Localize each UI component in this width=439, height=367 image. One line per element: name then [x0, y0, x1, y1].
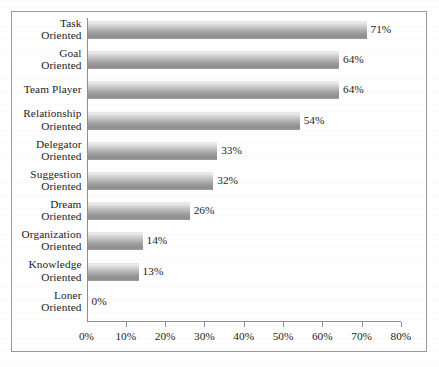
category-label-line: Oriented — [4, 150, 82, 162]
bar-value-label: 0% — [92, 293, 107, 310]
bar-value-label: 13% — [143, 263, 164, 280]
x-axis-tick — [244, 322, 245, 327]
bar-value-label: 14% — [147, 232, 168, 249]
category-label-line: Oriented — [4, 210, 82, 222]
x-axis-tick — [283, 322, 284, 327]
category-label-line: Suggestion — [4, 168, 82, 180]
category-label-line: Delegator — [4, 138, 82, 150]
y-axis-category-label: OrganizationOriented — [4, 228, 82, 253]
category-label-line: Task — [4, 17, 82, 29]
chart-figure: 0%10%20%30%40%50%60%70%80%TaskOriented71… — [0, 0, 439, 367]
y-axis-category-label: SuggestionOriented — [4, 168, 82, 193]
bar-0 — [88, 21, 367, 39]
x-axis-tick — [362, 322, 363, 327]
category-label-line: Oriented — [4, 29, 82, 41]
bar-7 — [88, 232, 143, 250]
category-label-line: Knowledge — [4, 258, 82, 270]
y-axis-category-label: RelationshipOriented — [4, 107, 82, 132]
y-axis-category-label: KnowledgeOriented — [4, 258, 82, 283]
y-axis-category-label: Team Player — [4, 83, 82, 95]
x-axis-tick — [322, 322, 323, 327]
bar-value-label: 71% — [371, 21, 392, 38]
y-axis-category-label: GoalOriented — [4, 47, 82, 72]
bar-4 — [88, 142, 218, 160]
x-axis-tick-label: 50% — [273, 330, 294, 342]
y-axis-category-label: DreamOriented — [4, 198, 82, 223]
bar-2 — [88, 81, 340, 99]
x-axis-tick-label: 0% — [79, 330, 94, 342]
category-label-line: Loner — [4, 289, 82, 301]
x-axis-tick-label: 40% — [233, 330, 254, 342]
x-axis-tick — [126, 322, 127, 327]
category-label-line: Relationship — [4, 107, 82, 119]
bar-3 — [88, 112, 300, 130]
bar-value-label: 32% — [217, 172, 238, 189]
category-label-line: Oriented — [4, 59, 82, 71]
x-axis-tick — [204, 322, 205, 327]
bar-6 — [88, 202, 190, 220]
bar-value-label: 64% — [343, 51, 364, 68]
category-label-line: Oriented — [4, 180, 82, 192]
y-axis-category-label: LonerOriented — [4, 289, 82, 314]
x-axis-tick-label: 70% — [351, 330, 372, 342]
category-label-line: Oriented — [4, 240, 82, 252]
category-label-line: Dream — [4, 198, 82, 210]
x-axis-tick-label: 30% — [194, 330, 215, 342]
chart-plot-area: 0%10%20%30%40%50%60%70%80%TaskOriented71… — [0, 0, 439, 367]
category-label-line: Oriented — [4, 301, 82, 313]
y-axis-category-label: DelegatorOriented — [4, 138, 82, 163]
category-label-line: Organization — [4, 228, 82, 240]
x-axis-tick — [165, 322, 166, 327]
bar-value-label: 26% — [194, 202, 215, 219]
category-label-line: Team Player — [4, 83, 82, 95]
x-axis-tick-label: 10% — [115, 330, 136, 342]
x-axis-tick-label: 60% — [312, 330, 333, 342]
x-axis-tick-label: 80% — [391, 330, 412, 342]
category-label-line: Goal — [4, 47, 82, 59]
category-label-line: Oriented — [4, 120, 82, 132]
x-axis-tick-label: 20% — [155, 330, 176, 342]
bar-5 — [88, 172, 214, 190]
bar-8 — [88, 263, 139, 281]
x-axis-tick — [401, 322, 402, 327]
category-label-line: Oriented — [4, 271, 82, 283]
bar-value-label: 64% — [343, 81, 364, 98]
bar-value-label: 54% — [304, 112, 325, 129]
bar-value-label: 33% — [221, 142, 242, 159]
bar-1 — [88, 51, 340, 69]
y-axis-category-label: TaskOriented — [4, 17, 82, 42]
